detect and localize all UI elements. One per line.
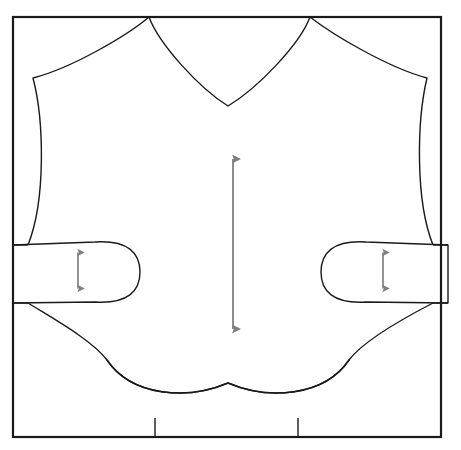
pattern-diagram-root (0, 0, 461, 450)
right-sleeve-lobe (321, 242, 448, 303)
pattern-drawing-canvas (0, 0, 461, 450)
left-sleeve-lobe (13, 242, 140, 303)
